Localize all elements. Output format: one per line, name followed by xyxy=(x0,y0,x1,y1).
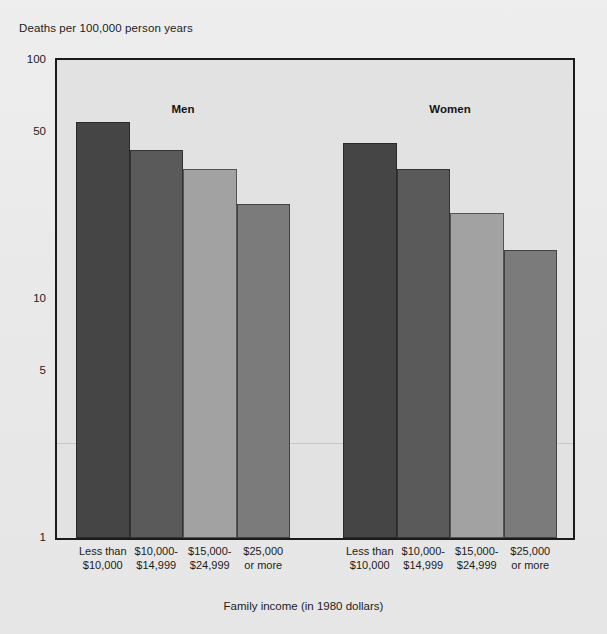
plot-area: MenWomen xyxy=(55,58,575,540)
x-axis-category-labels: Less than$10,000$10,000-$14,999$15,000-$… xyxy=(55,545,575,589)
group-title-women: Women xyxy=(429,103,470,115)
y-axis-tick-labels: 100501051 xyxy=(0,58,50,540)
x-label-men-1: Less than$10,000 xyxy=(79,545,127,572)
plot-inner: MenWomen xyxy=(57,60,573,538)
bar-women-2 xyxy=(397,169,451,538)
y-tick-label-100: 100 xyxy=(0,54,46,66)
bar-men-2 xyxy=(130,150,184,538)
x-label-women-4: $25,000or more xyxy=(510,545,550,572)
bar-men-1 xyxy=(76,122,130,538)
x-label-women-3: $15,000-$24,999 xyxy=(455,545,498,572)
x-axis-title: Family income (in 1980 dollars) xyxy=(0,600,607,612)
bar-men-4 xyxy=(237,204,291,538)
y-tick-label-50: 50 xyxy=(0,126,46,138)
x-label-men-4: $25,000or more xyxy=(243,545,283,572)
y-tick-label-10: 10 xyxy=(0,293,46,305)
y-tick-label-1: 1 xyxy=(0,532,46,544)
x-label-men-2: $10,000-$14,999 xyxy=(135,545,178,572)
y-axis-title: Deaths per 100,000 person years xyxy=(19,22,193,34)
chart-figure: Deaths per 100,000 person years 10050105… xyxy=(0,0,607,634)
bar-women-1 xyxy=(343,143,397,538)
bar-men-3 xyxy=(183,169,237,538)
group-title-men: Men xyxy=(172,103,195,115)
x-label-women-1: Less than$10,000 xyxy=(346,545,394,572)
x-label-men-3: $15,000-$24,999 xyxy=(188,545,231,572)
bar-women-4 xyxy=(504,250,558,538)
x-label-women-2: $10,000-$14,999 xyxy=(402,545,445,572)
y-tick-label-5: 5 xyxy=(0,365,46,377)
bar-women-3 xyxy=(450,213,504,538)
